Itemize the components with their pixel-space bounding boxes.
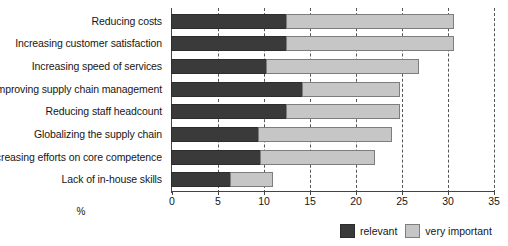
category-label: Increasing speed of services (32, 60, 162, 72)
plot-area (172, 10, 494, 191)
category-label: Improving supply chain management (0, 83, 162, 95)
bar-segment-very-important (286, 14, 454, 29)
category-label: Lack of in-house skills (62, 173, 162, 185)
category-label: Globalizing the supply chain (34, 128, 162, 140)
legend-swatch-icon (340, 224, 355, 238)
bar-segment-very-important (230, 172, 273, 187)
chart-legend: relevantvery important (340, 224, 492, 238)
bar-segment-relevant (171, 127, 259, 142)
bar-row (172, 150, 375, 165)
legend-item: relevant (340, 224, 397, 238)
bar-row (172, 36, 454, 51)
gridline (494, 8, 495, 193)
bar-segment-relevant (171, 14, 287, 29)
legend-swatch-icon (405, 224, 420, 238)
category-label: Increasing customer satisfaction (15, 37, 162, 49)
x-axis-title: % (0, 206, 508, 217)
legend-label: relevant (360, 225, 397, 237)
bar-row (172, 59, 419, 74)
category-label: Increasing efforts on core competence (0, 151, 162, 163)
bar-segment-very-important (286, 36, 454, 51)
bar-row (172, 172, 273, 187)
bar-row (172, 127, 392, 142)
bar-segment-relevant (171, 59, 267, 74)
bar-segment-relevant (171, 150, 261, 165)
x-axis-title-text: % (77, 206, 86, 217)
bar-segment-relevant (171, 36, 287, 51)
stacked-bar-chart: Reducing costsIncreasing customer satisf… (0, 0, 508, 246)
bar-segment-relevant (171, 172, 231, 187)
bar-segment-relevant (171, 104, 287, 119)
bar-segment-very-important (258, 127, 391, 142)
bar-segment-very-important (260, 150, 375, 165)
bar-segment-relevant (171, 82, 303, 97)
bar-segment-very-important (286, 104, 400, 119)
category-axis-labels: Reducing costsIncreasing customer satisf… (0, 10, 168, 191)
legend-item: very important (405, 224, 492, 238)
bar-row (172, 14, 454, 29)
category-label: Reducing costs (92, 15, 162, 27)
bar-row (172, 104, 400, 119)
bar-row (172, 82, 400, 97)
legend-label: very important (425, 225, 492, 237)
category-label: Reducing staff headcount (46, 105, 163, 117)
bar-segment-very-important (266, 59, 420, 74)
bar-segment-very-important (302, 82, 400, 97)
